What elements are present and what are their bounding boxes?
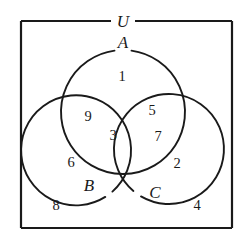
region-value-b-only: 6: [67, 154, 74, 170]
region-value-a-and-b-and-c: 3: [109, 127, 116, 143]
set-label-c: C: [149, 183, 161, 202]
region-value-a-and-c-only: 5: [148, 102, 155, 118]
region-value-c-only: 2: [173, 155, 180, 171]
region-value-a-only: 1: [118, 68, 125, 84]
region-value-outside-left: 8: [52, 197, 59, 213]
region-value-c-and-a-lower: 7: [154, 128, 161, 144]
set-label-b: B: [84, 176, 95, 195]
venn-diagram-canvas: U A B C 1 9 3 5 7 6 2 8 4: [0, 0, 243, 241]
region-value-outside-right: 4: [193, 197, 201, 213]
universe-label: U: [117, 12, 131, 31]
region-value-a-and-b-only: 9: [84, 108, 91, 124]
venn-diagram-figure: U A B C 1 9 3 5 7 6 2 8 4: [0, 0, 243, 241]
set-label-a: A: [117, 33, 129, 52]
